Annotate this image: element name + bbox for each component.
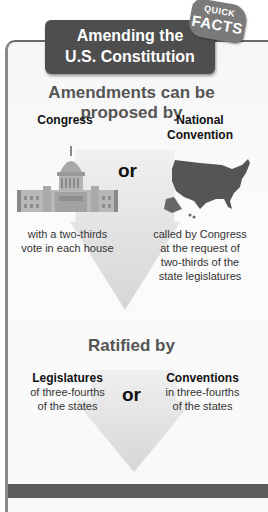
national-convention-description-line-4: state legislatures: [150, 269, 250, 283]
legislatures-description-line-1: of three-fourths: [25, 385, 110, 399]
congress-description-line-2: vote in each house: [20, 241, 115, 255]
conventions-description-line-2: of the states: [160, 399, 245, 413]
ratification-heading: Ratified by: [10, 336, 253, 356]
legislatures-description-line-2: of the states: [25, 399, 110, 413]
national-convention-description: called by Congress at the request of two…: [150, 227, 250, 283]
footer-bar: [5, 484, 268, 498]
conventions-description-line-1: in three-fourths: [160, 385, 245, 399]
congress-label: Congress: [20, 113, 110, 128]
national-convention-description-line-2: at the request of: [150, 241, 250, 255]
title-line-2: U.S. Constitution: [45, 46, 215, 67]
conventions-label: Conventions: [160, 371, 245, 386]
national-convention-description-line-3: two-thirds of the: [150, 255, 250, 269]
national-convention-label: National Convention: [150, 113, 250, 143]
capitol-building-icon: [15, 144, 120, 214]
or-connector-ratification: or: [122, 384, 141, 406]
legislatures-label: Legislatures: [25, 371, 110, 386]
congress-description: with a two-thirds vote in each house: [20, 227, 115, 255]
us-map-icon: [160, 155, 255, 220]
national-convention-label-line-2: Convention: [150, 128, 250, 143]
congress-description-line-1: with a two-thirds: [20, 227, 115, 241]
or-connector-proposal: or: [118, 160, 137, 182]
conventions-description: in three-fourths of the states: [160, 385, 245, 413]
national-convention-label-line-1: National: [150, 113, 250, 128]
legislatures-description: of three-fourths of the states: [25, 385, 110, 413]
national-convention-description-line-1: called by Congress: [150, 227, 250, 241]
